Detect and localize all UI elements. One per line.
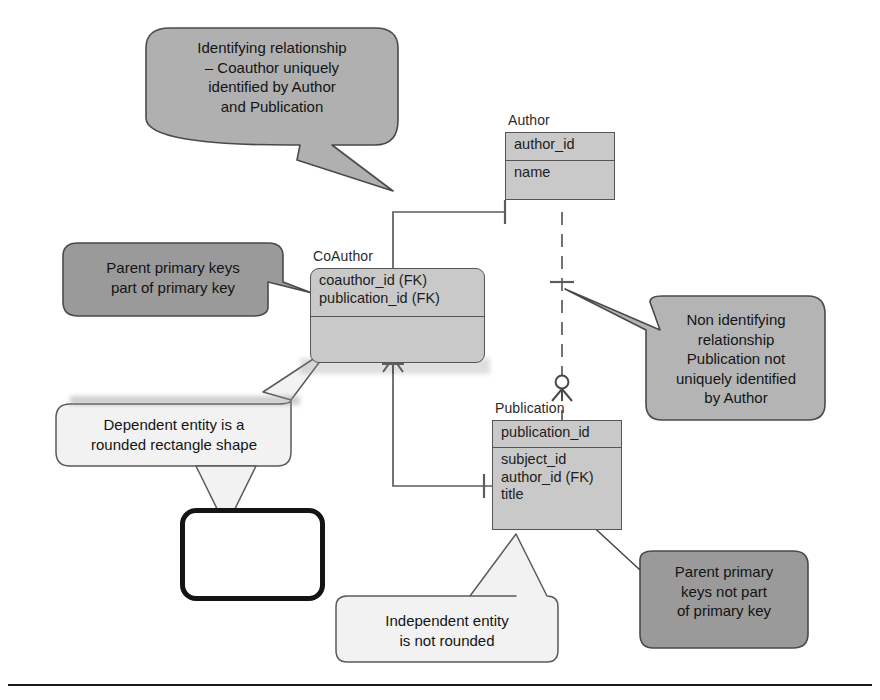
entity-publication[interactable]: Publication publication_id subject_id au… [492, 400, 622, 535]
relationship-author-publication [550, 212, 574, 420]
diagram-canvas: Author author_id name CoAuthor coauthor_… [0, 0, 880, 700]
entity-author-body: author_id name [505, 132, 615, 200]
attribute-subject-id: subject_id [501, 451, 614, 469]
entity-author-attr-section: name [506, 161, 614, 186]
entity-publication-attr-section: subject_id author_id (FK) title [493, 448, 621, 508]
entity-author[interactable]: Author author_id name [505, 112, 615, 212]
attribute-title: title [501, 486, 614, 504]
entity-publication-body: publication_id subject_id author_id (FK)… [492, 420, 622, 530]
rounded-rectangle-example-shape [180, 508, 325, 601]
entity-coauthor[interactable]: CoAuthor coauthor_id (FK) publication_id… [310, 248, 485, 363]
entity-coauthor-pk-section: coauthor_id (FK) publication_id (FK) [311, 269, 484, 317]
callout-identifying-relationship [146, 28, 398, 191]
callout-parent-pk-part [63, 243, 312, 316]
attribute-coauthor-id: coauthor_id (FK) [319, 272, 477, 290]
callout-dependent-entity [56, 348, 330, 527]
attribute-author-id: author_id [514, 136, 607, 154]
entity-coauthor-body: coauthor_id (FK) publication_id (FK) [310, 268, 485, 363]
cardinality-zero-circle [556, 376, 569, 389]
attribute-author-id-fk: author_id (FK) [501, 469, 614, 487]
entity-author-pk-section: author_id [506, 133, 614, 161]
attribute-publication-id-fk: publication_id (FK) [319, 290, 477, 308]
attribute-publication-id: publication_id [501, 424, 614, 442]
entity-author-title: Author [508, 112, 550, 128]
entity-coauthor-title: CoAuthor [313, 248, 373, 264]
attribute-name: name [514, 164, 607, 182]
callout-independent-entity [336, 534, 558, 662]
entity-publication-pk-section: publication_id [493, 421, 621, 448]
entity-coauthor-attr-section [311, 317, 484, 324]
callout-parent-pk-not-part [587, 521, 808, 648]
page-divider-rule [8, 684, 872, 686]
relationship-coauthor-publication [382, 358, 492, 498]
entity-publication-title: Publication [495, 400, 565, 416]
